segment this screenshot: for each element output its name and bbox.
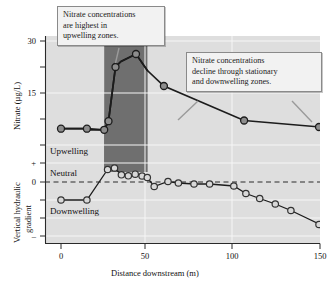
callout-decline: Nitrate concentrations decline through s… xyxy=(186,52,322,92)
zone-label-downwelling: Downwelling xyxy=(50,206,99,216)
callout-upwelling: Nitrate concentrations are highest in up… xyxy=(57,6,165,46)
callout-decline-line-1: Nitrate concentrations xyxy=(192,56,317,67)
ytick-zero: 0 xyxy=(32,177,36,187)
zone-label-upwelling: Upwelling xyxy=(50,146,88,156)
chart-svg: 30 15 + 0 – 0 50 100 150 xyxy=(0,0,331,287)
y-axis-label-gradient-line1: Vertical hydraulic xyxy=(12,182,22,243)
x-axis-ticks xyxy=(61,244,320,250)
x-axis-label: Distance downstream (m) xyxy=(111,268,199,278)
zone-label-neutral: Neutral xyxy=(50,168,77,178)
ytick-plus: + xyxy=(31,158,36,168)
callout-upwelling-line-2: are highest in xyxy=(63,21,160,32)
y-axis-label-gradient-line2: gradient xyxy=(23,205,33,233)
ytick-15: 15 xyxy=(28,88,37,98)
callout-upwelling-line-1: Nitrate concentrations xyxy=(63,10,160,21)
xtick-150: 150 xyxy=(314,251,327,261)
ytick-30: 30 xyxy=(28,36,37,46)
callout-decline-line-3: and downwelling zones. xyxy=(192,77,317,88)
xtick-0: 0 xyxy=(59,251,63,261)
y-axis-ticks xyxy=(40,41,46,236)
xtick-100: 100 xyxy=(226,251,239,261)
y-axis-label-nitrate: Nitrate (µg/L) xyxy=(12,82,22,130)
xtick-50: 50 xyxy=(141,251,150,261)
callout-decline-line-2: decline through stationary xyxy=(192,67,317,78)
callout-upwelling-line-3: upwelling zones. xyxy=(63,31,160,42)
figure-root: 30 15 + 0 – 0 50 100 150 xyxy=(0,0,331,287)
